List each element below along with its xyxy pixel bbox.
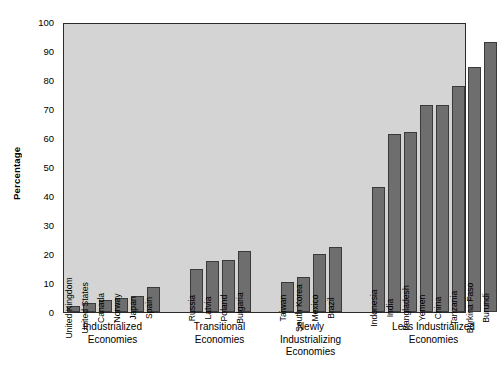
bar-label: Canada [96, 293, 106, 323]
y-axis-tick: 100 [0, 23, 63, 24]
y-axis-tick-label: 90 [43, 46, 54, 58]
y-axis-tick-label: 60 [43, 133, 54, 145]
bar: Poland [222, 260, 235, 312]
bar: India [388, 134, 401, 312]
bar: Mexico [313, 254, 326, 312]
y-axis-tick-label: 40 [43, 191, 54, 203]
y-axis-tick: 0 [0, 313, 63, 314]
x-axis-group-label: Less Industrialized Economies [374, 321, 494, 346]
bar-label: India [385, 299, 395, 318]
plot-area: United KingdomUnited StatesCanadaNorwayJ… [63, 23, 466, 313]
y-axis-tick-label: 30 [43, 220, 54, 232]
y-axis-tick: 40 [0, 197, 63, 198]
y-axis-tick: 70 [0, 110, 63, 111]
bar: Bangladesh [404, 132, 417, 312]
y-axis-tick: 60 [0, 139, 63, 140]
bar: United States [83, 303, 96, 312]
x-axis-group-label: Newly Industrializing Economies [251, 321, 371, 359]
bar: Latvia [206, 261, 219, 312]
bar: Burkina Faso [468, 67, 481, 312]
bar-label: Bulgaria [235, 292, 245, 324]
bar: Yemen [420, 105, 433, 312]
bar: Norway [115, 298, 128, 313]
bar-label: Burundi [481, 293, 491, 323]
bar-label: Taiwan [278, 295, 288, 322]
y-axis-tick-label: 20 [43, 249, 54, 261]
bar: Burundi [484, 42, 497, 312]
y-axis-label: Percentage [8, 128, 26, 218]
y-axis-tick: 20 [0, 255, 63, 256]
bar-label: Spain [144, 297, 154, 319]
bar: China [436, 105, 449, 312]
bar: Canada [99, 300, 112, 312]
x-axis-group-label: Industrialized Economies [53, 321, 173, 346]
bar-label: Japan [128, 296, 138, 319]
bar-label: Yemen [417, 295, 427, 321]
y-axis-tick: 90 [0, 52, 63, 53]
y-axis-tick-label: 70 [43, 104, 54, 116]
y-axis-tick-label: 0 [49, 307, 54, 319]
bar: Brazil [329, 247, 342, 312]
y-axis-tick: 30 [0, 226, 63, 227]
bar: Bulgaria [238, 251, 251, 312]
y-axis-tick: 10 [0, 284, 63, 285]
bar-label: Mexico [310, 294, 320, 321]
bar: United Kingdom [67, 306, 80, 312]
bar: Indonesia [372, 187, 385, 312]
y-axis-tick: 50 [0, 168, 63, 169]
bar: Spain [147, 287, 160, 312]
bar-label: Latvia [203, 297, 213, 320]
y-axis-tick-label: 50 [43, 162, 54, 174]
bar-label: Poland [219, 295, 229, 322]
bar: Tanzania [452, 86, 465, 312]
y-axis-tick-label: 100 [38, 17, 54, 29]
bar-label: Brazil [326, 297, 336, 319]
bar: Japan [131, 296, 144, 312]
bar: Russia [190, 269, 203, 313]
bar: Taiwan [281, 282, 294, 312]
y-axis-tick-label: 80 [43, 75, 54, 87]
bar-label: Russia [187, 295, 197, 321]
y-axis-tick: 80 [0, 81, 63, 82]
bar-label: China [433, 297, 443, 319]
y-axis-tick-label: 10 [43, 278, 54, 290]
bar-label: Norway [112, 293, 122, 322]
bar: South Korea [297, 277, 310, 312]
